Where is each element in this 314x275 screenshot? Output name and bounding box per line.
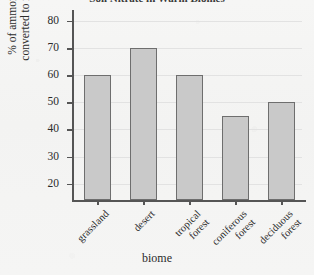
x-axis-category-label: coniferousforest: [210, 208, 258, 256]
x-axis-tick: [143, 200, 145, 205]
bar: [84, 75, 111, 200]
y-axis-title-line2: converted to nitrate: [19, 0, 32, 61]
y-axis-tick-label: 50: [48, 97, 60, 109]
x-axis-tick: [235, 200, 237, 205]
x-axis-category-label: tropicalforest: [172, 208, 211, 247]
x-axis-category-label: deciduousforest: [257, 208, 303, 254]
y-axis-tick-label: 80: [48, 15, 60, 27]
bar: [222, 116, 249, 200]
chart-title-text: Soil Nitrate in Warm Biomes: [0, 0, 314, 4]
y-axis-title: % of ammonium converted to nitrate: [6, 0, 32, 76]
x-axis-tick: [281, 200, 283, 205]
bar: [130, 48, 157, 200]
bar: [176, 75, 203, 200]
x-axis-category-label: desert: [131, 208, 157, 234]
y-axis-tick-label: 30: [48, 151, 60, 163]
gridline: [72, 48, 302, 49]
plot-area: 20304050607080 grasslanddeserttropicalfo…: [72, 10, 302, 200]
x-axis-category-label-line: desert: [131, 208, 157, 234]
bar-chart-figure: Soil Nitrate in Warm Biomes 203040506070…: [0, 0, 314, 275]
x-axis-category-label: grassland: [75, 208, 111, 244]
x-axis-category-label-line: grassland: [75, 208, 111, 244]
y-axis-tick-label: 60: [48, 69, 60, 81]
bar: [268, 102, 295, 200]
chart-title-clipped: Soil Nitrate in Warm Biomes: [0, 0, 314, 4]
x-axis-tick: [189, 200, 191, 205]
y-axis-tick: 60: [67, 75, 73, 77]
y-axis-tick-label: 40: [48, 124, 60, 136]
y-axis-tick: 70: [67, 48, 73, 50]
gridline: [72, 21, 302, 22]
y-axis-tick: 50: [67, 102, 73, 104]
y-axis-tick-label: 20: [48, 178, 60, 190]
x-axis-tick: [97, 200, 99, 205]
y-axis-line: [72, 10, 74, 200]
y-axis-tick: 80: [67, 21, 73, 23]
y-axis-tick: 40: [67, 129, 73, 131]
y-axis-title-line1: % of ammonium: [6, 0, 19, 55]
y-axis-tick: 20: [67, 184, 73, 186]
y-axis-tick-label: 70: [48, 42, 60, 54]
y-axis-tick: 30: [67, 157, 73, 159]
x-axis-title: biome: [0, 252, 314, 265]
